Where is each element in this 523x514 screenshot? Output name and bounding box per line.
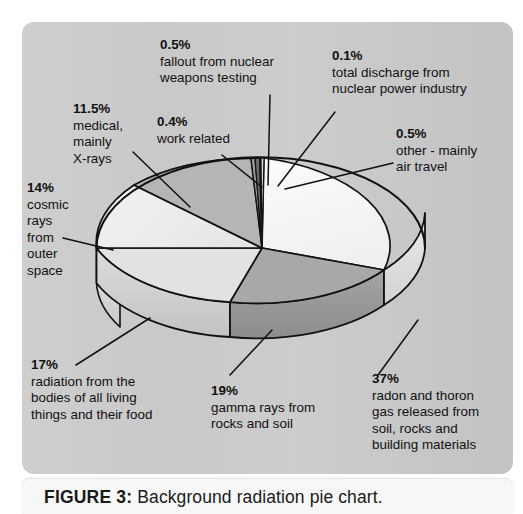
label-radon-line3: soil, rocks and — [372, 421, 479, 438]
label-radon-line2: gas released from — [372, 404, 479, 421]
label-fallout: 0.5% fallout from nuclear weapons testin… — [160, 37, 274, 87]
label-fallout-line2: weapons testing — [160, 70, 274, 87]
label-cosmic-line3: from — [27, 230, 69, 247]
label-medical-pct: 11.5% — [73, 101, 123, 118]
label-work-line1: work related — [157, 131, 230, 148]
label-work: 0.4% work related — [157, 114, 230, 147]
label-other-line2: air travel — [396, 159, 477, 176]
label-other-pct: 0.5% — [396, 126, 477, 143]
label-cosmic-line1: cosmic — [27, 197, 69, 214]
label-medical-line1: medical, — [73, 118, 123, 135]
label-fallout-pct: 0.5% — [160, 37, 274, 54]
label-medical: 11.5% medical, mainly X-rays — [73, 101, 123, 167]
label-nuclear-power: 0.1% total discharge from nuclear power … — [332, 48, 467, 98]
label-cosmic-line5: space — [27, 263, 69, 280]
label-medical-line2: mainly — [73, 134, 123, 151]
label-gamma: 19% gamma rays from rocks and soil — [211, 383, 315, 433]
label-cosmic-line2: rays — [27, 213, 69, 230]
label-radon-line1: radon and thoron — [372, 388, 479, 405]
label-bodies-line3: things and their food — [31, 407, 152, 424]
label-cosmic-line4: outer — [27, 246, 69, 263]
label-fallout-line1: fallout from nuclear — [160, 54, 274, 71]
label-nuclear-power-line2: nuclear power industry — [332, 81, 467, 98]
label-other: 0.5% other - mainly air travel — [396, 126, 477, 176]
label-radon: 37% radon and thoron gas released from s… — [372, 371, 479, 454]
label-bodies: 17% radiation from the bodies of all liv… — [31, 357, 152, 423]
label-gamma-pct: 19% — [211, 383, 315, 400]
figure-caption: FIGURE 3: Background radiation pie chart… — [44, 487, 383, 508]
label-work-pct: 0.4% — [157, 114, 230, 131]
label-cosmic-pct: 14% — [27, 180, 69, 197]
figure-root: 0.5% fallout from nuclear weapons testin… — [0, 0, 523, 514]
label-bodies-pct: 17% — [31, 357, 152, 374]
label-other-line1: other - mainly — [396, 143, 477, 160]
label-radon-pct: 37% — [372, 371, 479, 388]
label-cosmic: 14% cosmic rays from outer space — [27, 180, 69, 280]
label-radon-line4: building materials — [372, 437, 479, 454]
label-medical-line3: X-rays — [73, 151, 123, 168]
label-bodies-line1: radiation from the — [31, 374, 152, 391]
label-nuclear-power-pct: 0.1% — [332, 48, 467, 65]
figure-caption-text: Background radiation pie chart. — [132, 487, 382, 507]
label-nuclear-power-line1: total discharge from — [332, 65, 467, 82]
label-gamma-line2: rocks and soil — [211, 416, 315, 433]
figure-number: FIGURE 3: — [44, 487, 132, 507]
label-gamma-line1: gamma rays from — [211, 400, 315, 417]
label-bodies-line2: bodies of all living — [31, 390, 152, 407]
